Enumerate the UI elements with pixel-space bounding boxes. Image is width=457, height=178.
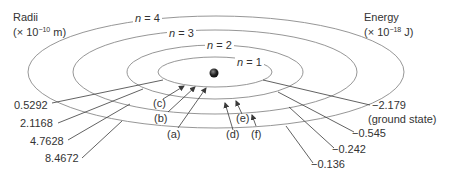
energy-leader-n2 xyxy=(278,92,354,132)
transition-label-e: (e) xyxy=(236,112,249,124)
transition-label-b: (b) xyxy=(154,112,167,124)
energy-value-n4: −0.136 xyxy=(311,158,345,170)
bohr-model-diagram: Radii (× 10−10 m) Energy (× 10−18 J) n =… xyxy=(0,0,457,178)
energy-leader-n4 xyxy=(286,126,313,163)
transition-label-f: (f) xyxy=(251,128,261,140)
energy-title: Energy xyxy=(364,11,414,23)
radius-value-n2: 2.1168 xyxy=(20,117,53,129)
radius-value-n3: 4.7628 xyxy=(30,135,64,147)
radius-value-n1: 0.5292 xyxy=(14,99,48,111)
transition-arrow-f xyxy=(252,115,256,126)
energy-value-n2: −0.545 xyxy=(352,127,386,139)
transition-arrow-b xyxy=(168,87,195,112)
nucleus-icon xyxy=(210,69,219,78)
energy-header: Energy (× 10−18 J) xyxy=(364,11,414,38)
energy-unit: (× 10−18 J) xyxy=(364,26,414,38)
radii-unit: (× 10−10 m) xyxy=(13,26,66,38)
orbit-label-n1: n = 1 xyxy=(235,56,264,68)
transition-arrow-a xyxy=(178,88,206,128)
orbit-label-n4: n = 4 xyxy=(133,12,162,24)
transition-arrow-d xyxy=(225,103,233,130)
radius-leader-n4 xyxy=(82,121,122,158)
transition-label-c: (c) xyxy=(153,97,166,109)
ground-state-note: (ground state) xyxy=(368,113,436,125)
energy-leader-n3 xyxy=(289,107,334,148)
energy-value-n1: −2.179 (ground state) xyxy=(372,99,436,125)
radius-value-n4: 8.4672 xyxy=(45,152,79,164)
transition-label-d: (d) xyxy=(226,128,239,140)
energy-value-n3: −0.242 xyxy=(332,143,366,155)
radii-title: Radii xyxy=(13,11,66,23)
transition-label-a: (a) xyxy=(167,128,180,140)
radii-header: Radii (× 10−10 m) xyxy=(13,11,66,38)
orbit-label-n2: n = 2 xyxy=(205,39,234,51)
orbit-label-n3: n = 3 xyxy=(167,27,196,39)
